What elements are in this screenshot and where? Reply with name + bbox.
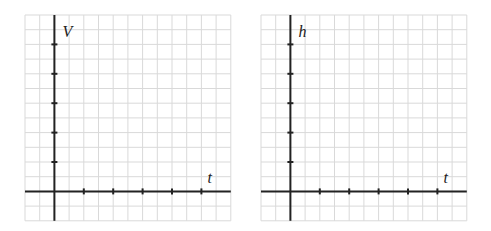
y-axis-label: V: [62, 23, 74, 40]
y-axis-label: h: [298, 23, 306, 40]
grid-lines: [25, 15, 231, 221]
volume-graph: Vt: [25, 15, 231, 221]
x-axis-label: t: [443, 169, 448, 186]
grid-lines: [261, 15, 467, 221]
height-graph: ht: [261, 15, 467, 221]
x-axis-label: t: [207, 169, 212, 186]
graphs-canvas: Vtht: [0, 0, 491, 231]
